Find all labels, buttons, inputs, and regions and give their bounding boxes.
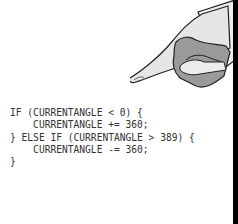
code-line: } ELSE IF (CURRENTANGLE > 389) { bbox=[10, 132, 195, 144]
code-line: } bbox=[10, 156, 195, 168]
code-snippet: IF (CURRENTANGLE < 0) { CURRENTANGLE += … bbox=[10, 107, 195, 168]
code-line: CURRENTANGLE += 360; bbox=[10, 119, 195, 131]
code-line: IF (CURRENTANGLE < 0) { bbox=[10, 107, 195, 119]
panel-border bbox=[233, 0, 238, 224]
code-line: CURRENTANGLE -= 360; bbox=[10, 144, 195, 156]
pointing-hand-icon bbox=[130, 0, 235, 100]
